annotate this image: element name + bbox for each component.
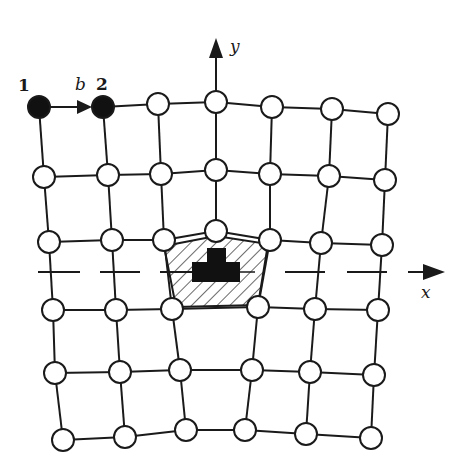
atom [52, 429, 74, 451]
atom [304, 298, 326, 320]
atom [33, 166, 55, 188]
atom [360, 427, 382, 449]
node-2-label: 2 [96, 74, 108, 94]
atom [205, 159, 227, 181]
atom [153, 229, 175, 251]
atom [259, 163, 281, 185]
atom [42, 299, 64, 321]
atom [241, 359, 263, 381]
atom [299, 361, 321, 383]
atom [295, 423, 317, 445]
atom [259, 229, 281, 251]
filled-atom [28, 96, 50, 118]
atom [38, 231, 60, 253]
atom [114, 426, 136, 448]
atom [150, 163, 172, 185]
burgers-vector-arrowhead-icon [77, 100, 92, 114]
atom [175, 419, 197, 441]
atom [371, 234, 393, 256]
atom [321, 98, 343, 120]
core-block-bottom [192, 262, 240, 282]
filled-atom [92, 96, 114, 118]
lattice-canvas: 1 b 2 y x [0, 0, 465, 474]
burgers-vector-label: b [75, 74, 86, 94]
atom [247, 296, 269, 318]
atom [377, 103, 399, 125]
atom [97, 164, 119, 186]
atom [147, 93, 169, 115]
atom [105, 299, 127, 321]
dislocation-diagram: 1 b 2 y x [0, 0, 465, 474]
atom [44, 362, 66, 384]
atom [234, 419, 256, 441]
atom [205, 220, 227, 242]
y-axis-label: y [229, 36, 240, 56]
y-axis-arrowhead-icon [209, 38, 223, 58]
atom [318, 165, 340, 187]
x-axis-arrowhead-icon [423, 264, 445, 280]
atom [310, 232, 332, 254]
atom [363, 364, 385, 386]
atom [374, 169, 396, 191]
atom [161, 298, 183, 320]
atom [101, 229, 123, 251]
core-block-top [207, 248, 226, 264]
atom [169, 359, 191, 381]
node-1-label: 1 [18, 75, 30, 95]
atom [261, 96, 283, 118]
x-axis-label: x [421, 282, 431, 302]
atom [205, 91, 227, 113]
atom [367, 299, 389, 321]
atom [109, 361, 131, 383]
